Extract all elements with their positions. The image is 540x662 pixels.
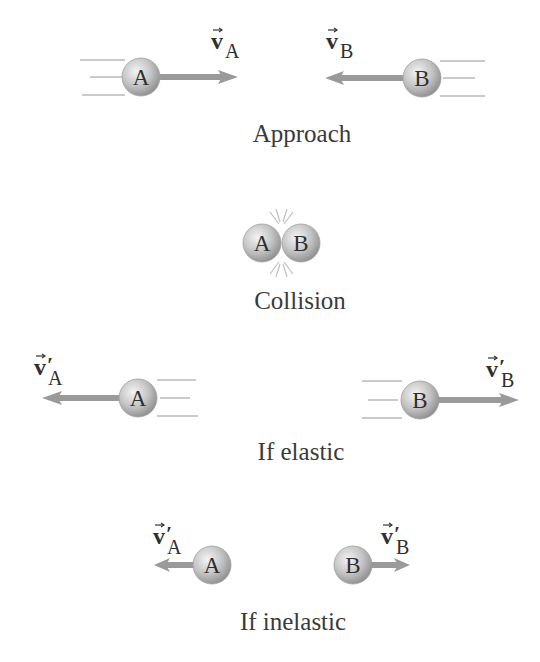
speed-lines-a: [80, 60, 125, 95]
ball-b: B: [282, 224, 320, 262]
caption-collision: Collision: [254, 287, 346, 314]
ball-b-label: B: [345, 553, 360, 578]
ball-b-label: B: [293, 231, 308, 256]
ball-a-label: A: [204, 553, 221, 578]
collision-diagram: A v A B v B Ap: [0, 0, 540, 662]
vector-symbol: v: [381, 523, 393, 549]
velocity-label-a: v A: [211, 28, 240, 62]
caption-inelastic: If inelastic: [240, 608, 346, 635]
ball-b-label: B: [412, 388, 427, 413]
speed-lines-a: [157, 380, 198, 416]
vector-symbol: v: [326, 28, 338, 54]
vector-subscript: A: [225, 40, 240, 62]
ball-a-label: A: [133, 65, 150, 90]
velocity-arrow-b: [325, 71, 404, 85]
ball-a-label: A: [130, 386, 147, 411]
ball-a-label: A: [254, 231, 271, 256]
panel-inelastic: A v ′ A B v ′ B If inelastic: [153, 521, 410, 635]
vector-subscript: B: [396, 536, 409, 558]
vector-subscript: B: [340, 40, 353, 62]
ball-a: A: [122, 58, 160, 96]
vector-subscript: A: [48, 367, 63, 389]
panel-elastic: A v ′ A B v: [34, 352, 519, 465]
vector-subscript: A: [167, 536, 182, 558]
ball-a: A: [243, 224, 281, 262]
velocity-label-a: v ′ A: [153, 521, 182, 558]
velocity-label-b: v ′ B: [486, 354, 514, 391]
velocity-label-a: v ′ A: [34, 352, 63, 389]
velocity-arrow-a: [158, 70, 238, 84]
velocity-arrow-a: [154, 558, 195, 572]
ball-a: A: [193, 546, 231, 584]
velocity-arrow-a: [42, 391, 120, 405]
vector-symbol: v: [153, 523, 165, 549]
vector-subscript: B: [501, 369, 514, 391]
vector-symbol: v: [34, 354, 46, 380]
caption-approach: Approach: [253, 120, 352, 147]
velocity-label-b: v B: [326, 28, 353, 62]
speed-lines-b: [362, 381, 402, 418]
caption-elastic: If elastic: [258, 438, 345, 465]
ball-b: B: [334, 546, 372, 584]
vector-symbol: v: [486, 356, 498, 382]
velocity-arrow-b: [371, 558, 410, 572]
panel-collision: A B Collision: [243, 209, 346, 314]
panel-approach: A v A B v B Ap: [80, 28, 485, 147]
vector-symbol: v: [211, 28, 223, 54]
speed-lines-b: [440, 61, 485, 96]
velocity-label-b: v ′ B: [381, 521, 409, 558]
ball-b: B: [401, 381, 439, 419]
ball-b: B: [403, 59, 441, 97]
ball-b-label: B: [414, 66, 429, 91]
velocity-arrow-b: [438, 393, 519, 407]
ball-a: A: [119, 379, 157, 417]
